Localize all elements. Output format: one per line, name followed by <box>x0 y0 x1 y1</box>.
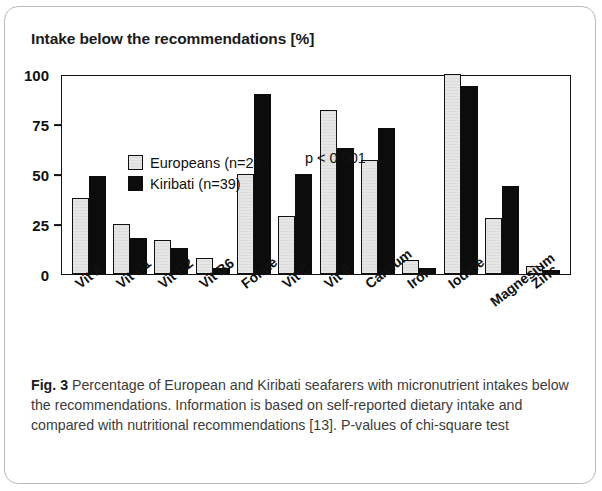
caption-label: Fig. 3 <box>31 377 68 393</box>
caption-text: Percentage of European and Kiribati seaf… <box>31 377 569 433</box>
p-value-annotation: p < 0.001 <box>305 150 366 166</box>
figure-caption: Fig. 3 Percentage of European and Kiriba… <box>31 375 576 435</box>
bar <box>320 110 337 274</box>
bar-group <box>275 76 316 274</box>
bar-group <box>523 76 564 274</box>
bar <box>72 198 89 274</box>
y-axis-tick-label: 50 <box>32 167 49 184</box>
bar-group <box>440 76 481 274</box>
legend-label: Europeans (n=24) <box>150 155 266 171</box>
bar-group <box>481 76 522 274</box>
y-axis-tick-mark <box>54 224 61 226</box>
legend-item: Kiribati (n=39) <box>128 173 266 194</box>
legend: Europeans (n=24)Kiribati (n=39) <box>128 152 266 194</box>
bar <box>278 216 295 274</box>
bar <box>461 86 478 274</box>
bar-group <box>357 76 398 274</box>
plot-area: Europeans (n=24)Kiribati (n=39) p < 0.00… <box>61 75 571 275</box>
bar <box>361 160 378 274</box>
y-axis-tick-label: 75 <box>32 117 49 134</box>
bar <box>502 186 519 274</box>
y-axis: 0255075100 <box>5 75 61 275</box>
legend-item: Europeans (n=24) <box>128 152 266 173</box>
figure-card: Intake below the recommendations [%] 025… <box>4 6 596 484</box>
x-axis-labels: Vit AVit B1Vit B2Vit B6FolateVit CVit EC… <box>61 275 571 365</box>
y-axis-tick-label: 0 <box>41 267 49 284</box>
y-axis-tick-mark <box>54 124 61 126</box>
y-axis-tick-label: 100 <box>24 67 49 84</box>
bar-group <box>399 76 440 274</box>
y-axis-tick-label: 25 <box>32 217 49 234</box>
chart-title: Intake below the recommendations [%] <box>31 30 314 48</box>
legend-label: Kiribati (n=39) <box>150 176 241 192</box>
legend-swatch <box>128 176 143 191</box>
bar <box>444 74 461 274</box>
y-axis-tick-mark <box>54 174 61 176</box>
bar-group <box>68 76 109 274</box>
bar <box>89 176 106 274</box>
bar <box>378 128 395 274</box>
bar-group <box>316 76 357 274</box>
bar <box>337 148 354 274</box>
legend-swatch <box>128 155 143 170</box>
